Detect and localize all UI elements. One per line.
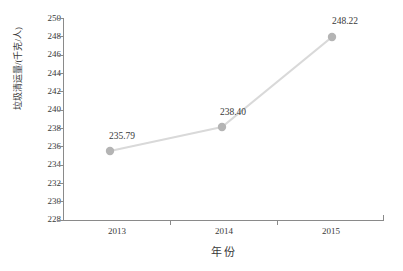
y-axis-tick-labels: 250 248 246 244 242 240 238 236 234 232 … bbox=[33, 0, 61, 271]
x-tick-label: 2015 bbox=[306, 226, 356, 236]
data-point-label: 238.40 bbox=[198, 107, 268, 117]
data-point-label: 248.22 bbox=[310, 16, 380, 26]
x-axis-tick bbox=[277, 220, 278, 225]
x-axis-title: 年 份 bbox=[63, 243, 383, 259]
x-axis-line bbox=[63, 220, 383, 221]
data-point-label: 235.79 bbox=[87, 131, 157, 141]
x-axis-tick-end bbox=[383, 215, 384, 221]
x-axis-tick bbox=[170, 220, 171, 225]
y-axis-line bbox=[63, 18, 64, 220]
x-tick-label: 2014 bbox=[199, 226, 249, 236]
chart-figure: 垃圾清运量/(千克/人) 250 248 246 244 242 240 238… bbox=[0, 0, 403, 271]
x-tick-label: 2013 bbox=[92, 226, 142, 236]
y-axis-title: 垃圾清运量/(千克/人) bbox=[11, 11, 24, 126]
